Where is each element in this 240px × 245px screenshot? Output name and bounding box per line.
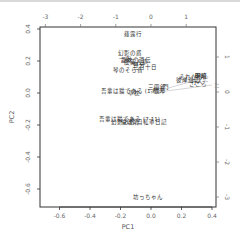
top-tick-label: 0: [149, 13, 153, 20]
point-label: 琴のそら音: [113, 66, 143, 74]
y-tick-label: 0.2: [24, 56, 31, 66]
point-labels: 薤露行幻影の盾一夜趣味の遺伝虞美人草野分二百十日琴のそら音それから明暗彼岸過迄行…: [99, 30, 207, 201]
top-tick-label: -1: [113, 13, 119, 20]
y-tick-label: -0.6: [24, 183, 31, 195]
x-tick-label: -0.6: [54, 212, 66, 219]
top-axis: -3-2-101: [42, 13, 188, 27]
y-tick-label: -0.2: [24, 119, 31, 131]
point-label: 坊っちゃん: [133, 193, 163, 201]
x-tick-label: 0.2: [177, 212, 187, 219]
y-axis-title: PC2: [8, 111, 16, 124]
right-tick-label: 0: [224, 90, 231, 94]
top-tick-label: -3: [42, 13, 48, 20]
left-axis: 0.40.20.0-0.2-0.4-0.6: [24, 24, 40, 195]
top-tick-label: 1: [184, 13, 188, 20]
top-tick-label: -2: [78, 13, 84, 20]
y-tick-label: -0.4: [24, 151, 31, 163]
right-axis: 10-1-2-3: [216, 55, 231, 200]
loading-label: た: [214, 82, 220, 89]
x-tick-label: 0.0: [146, 212, 156, 219]
loading-label: だ: [203, 76, 209, 83]
x-axis-title: PC1: [122, 223, 135, 231]
biplot-chart: -0.6-0.4-0.20.00.20.4 0.40.20.0-0.2-0.4-…: [0, 0, 240, 245]
bottom-axis: -0.6-0.4-0.20.00.20.4: [54, 207, 217, 219]
x-tick-label: -0.4: [84, 212, 96, 219]
point-label: 薤露行: [124, 30, 142, 38]
x-tick-label: -0.2: [115, 212, 127, 219]
right-tick-label: 1: [224, 55, 231, 59]
right-tick-label: -1: [224, 124, 231, 130]
point-label: こころ: [189, 81, 207, 88]
y-tick-label: 0.0: [24, 88, 31, 98]
right-tick-label: -3: [224, 194, 231, 200]
right-tick-label: -2: [224, 159, 231, 165]
x-tick-label: 0.4: [207, 212, 217, 219]
y-tick-label: 0.4: [24, 24, 31, 34]
point-label: 草枕: [128, 89, 140, 97]
point-label: 幻影の盾/自転車日記: [111, 118, 167, 126]
